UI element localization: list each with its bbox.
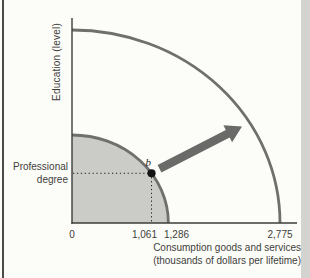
- point-b-label: b: [146, 157, 152, 168]
- x-axis-title-line-2: (thousands of dollars per lifetime): [153, 255, 301, 268]
- ppf-figure: Education (level) Professional degree 0 …: [0, 0, 310, 278]
- x-tick-0: 0: [69, 229, 75, 240]
- y-tick-line-1: Professional: [13, 160, 68, 173]
- x-axis-title-line-1: Consumption goods and services: [153, 242, 301, 255]
- x-tick-1061: 1,061: [132, 229, 157, 240]
- y-tick-professional-degree: Professional degree: [13, 160, 68, 186]
- outward-shift-arrow: [158, 125, 242, 172]
- point-b: [147, 169, 155, 177]
- x-axis-title: Consumption goods and services (thousand…: [153, 242, 301, 267]
- x-tick-2775: 2,775: [267, 229, 292, 240]
- y-axis-title: Education (level): [51, 23, 62, 101]
- y-tick-line-2: degree: [13, 173, 68, 186]
- x-tick-1286: 1,286: [164, 229, 189, 240]
